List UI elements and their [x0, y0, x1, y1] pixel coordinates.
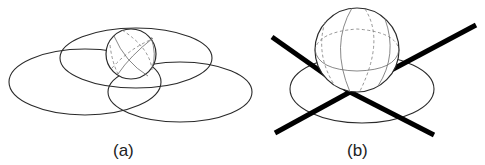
sphere-outline — [315, 8, 399, 92]
panel-a: (a) — [9, 28, 252, 160]
figure: (a) (b) — [0, 0, 485, 165]
panel-b: (b) — [272, 8, 476, 160]
panel-a-label: (a) — [113, 141, 134, 160]
sphere-a — [106, 29, 156, 79]
sphere-outline — [106, 29, 156, 79]
sphere-b — [315, 8, 399, 92]
thick-line-lower-left — [275, 92, 350, 133]
panel-b-label: (b) — [347, 141, 368, 160]
thick-line-lower-right — [350, 92, 434, 135]
